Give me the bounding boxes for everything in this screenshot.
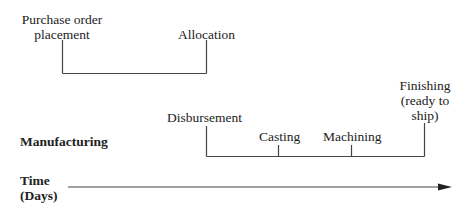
purchase-order-placement-label: Purchase order placement: [3, 12, 121, 42]
machining-label: Machining: [323, 129, 382, 144]
label-line: Finishing: [392, 78, 458, 93]
manufacturing-bracket: [207, 123, 425, 157]
finishing-label: Finishing (ready to ship): [392, 78, 458, 123]
label-line: placement: [3, 27, 121, 42]
allocation-label: Allocation: [178, 27, 235, 42]
time-axis-label: Time (Days): [20, 173, 58, 203]
label-line: ship): [392, 108, 458, 123]
label-line: Time: [20, 173, 58, 188]
label-line: (Days): [20, 188, 58, 203]
manufacturing-row-label: Manufacturing: [20, 134, 108, 149]
purchase-bracket: [63, 40, 207, 74]
time-axis-arrow: [68, 184, 452, 191]
disbursement-label: Disbursement: [167, 110, 242, 125]
label-line: Purchase order: [3, 12, 121, 27]
label-line: (ready to: [392, 93, 458, 108]
casting-label: Casting: [259, 129, 300, 144]
